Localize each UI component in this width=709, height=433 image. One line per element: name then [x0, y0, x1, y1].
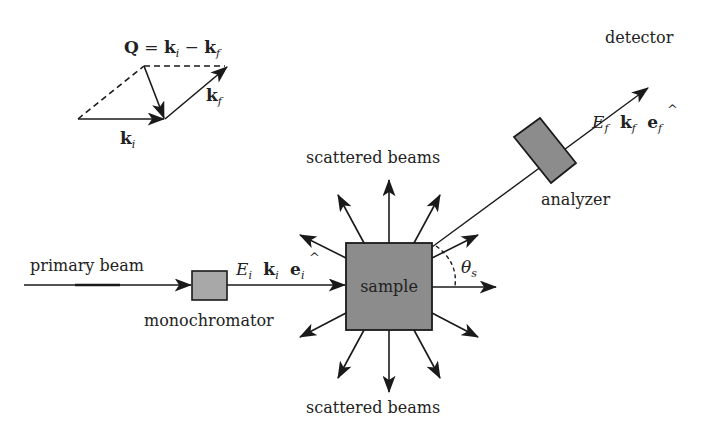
sample-label: sample	[360, 277, 418, 296]
analyzer-label: analyzer	[541, 190, 610, 209]
detector-label: detector	[605, 28, 674, 47]
monochromator-box	[192, 271, 227, 300]
scattered-arrow-up-right	[414, 195, 440, 243]
ki-label: ki	[120, 128, 135, 151]
q-dashed-left	[78, 66, 144, 119]
theta-label: θs	[461, 257, 477, 280]
q-equation: Q = ki − kf	[124, 37, 222, 60]
final-parameters: Ef kf ef	[591, 112, 664, 136]
scattered-arrow-right-down	[432, 313, 478, 337]
incident-hat: ^	[309, 250, 320, 265]
scattered-arrow-left-up	[300, 235, 346, 258]
scattered-arrow-left-down	[300, 313, 346, 337]
scattered-arrow-down-left	[338, 330, 364, 378]
scattered-arrow-down-right	[414, 330, 440, 378]
final-hat: ^	[667, 102, 678, 117]
scattered-arrow-up-left	[338, 195, 364, 243]
analyzer-box	[514, 118, 576, 183]
kf-label: kf	[206, 85, 224, 108]
primary-beam-label: primary beam	[30, 256, 144, 275]
q-vector	[144, 66, 164, 118]
scattered-beams-bottom-label: scattered beams	[306, 398, 440, 417]
scattering-diagram: Q = ki − kf ki kf primary beam monochrom…	[0, 0, 709, 433]
monochromator-label: monochromator	[144, 311, 274, 330]
scattered-arrow-right-up	[432, 235, 478, 258]
vector-diagram: Q = ki − kf ki kf	[78, 37, 227, 151]
incident-parameters: Ei ki ei	[235, 259, 304, 283]
scattered-beams-top-label: scattered beams	[306, 148, 440, 167]
